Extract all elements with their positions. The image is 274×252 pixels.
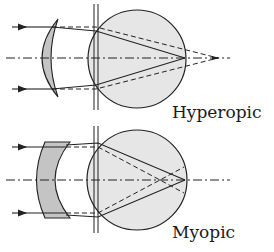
myopic-label: Myopic — [172, 222, 235, 242]
hyperopic-panel: Hyperopic — [6, 4, 262, 122]
myopic-panel: Myopic — [6, 126, 235, 242]
eye-correction-diagram: Hyperopic Myopic — [0, 0, 274, 252]
eye-globe-hyperopic — [88, 10, 186, 108]
hyperopic-label: Hyperopic — [172, 102, 262, 122]
focal-point-arrow-icon — [212, 56, 220, 60]
